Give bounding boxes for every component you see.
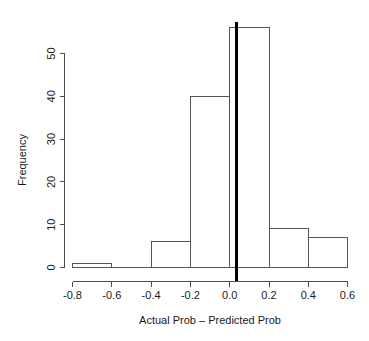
- x-tick-label-0.0: 0.0: [222, 289, 237, 301]
- x-tick-label-0.2: 0.2: [261, 289, 276, 301]
- x-tick-label-0.6: 0.6: [340, 289, 355, 301]
- y-tick-label-10: 10: [45, 219, 57, 231]
- y-tick-label-30: 30: [45, 133, 57, 145]
- y-tick-label-0: 0: [45, 264, 57, 270]
- x-tick-label--0.2: -0.2: [181, 289, 200, 301]
- y-axis-title: Frequency: [16, 134, 28, 186]
- x-tick-label--0.6: -0.6: [102, 289, 121, 301]
- histogram-plot: 0 10 20 30 40 50 Frequency: [0, 0, 369, 341]
- x-tick-label--0.8: -0.8: [63, 289, 82, 301]
- x-tick-label-0.4: 0.4: [301, 289, 316, 301]
- x-axis-title: Actual Prob – Predicted Prob: [139, 314, 281, 326]
- y-tick-label-40: 40: [45, 90, 57, 102]
- y-tick-label-20: 20: [45, 176, 57, 188]
- x-tick-label--0.4: -0.4: [142, 289, 161, 301]
- y-tick-label-50: 50: [45, 47, 57, 59]
- plot-canvas: 0 10 20 30 40 50 Frequency: [0, 0, 369, 341]
